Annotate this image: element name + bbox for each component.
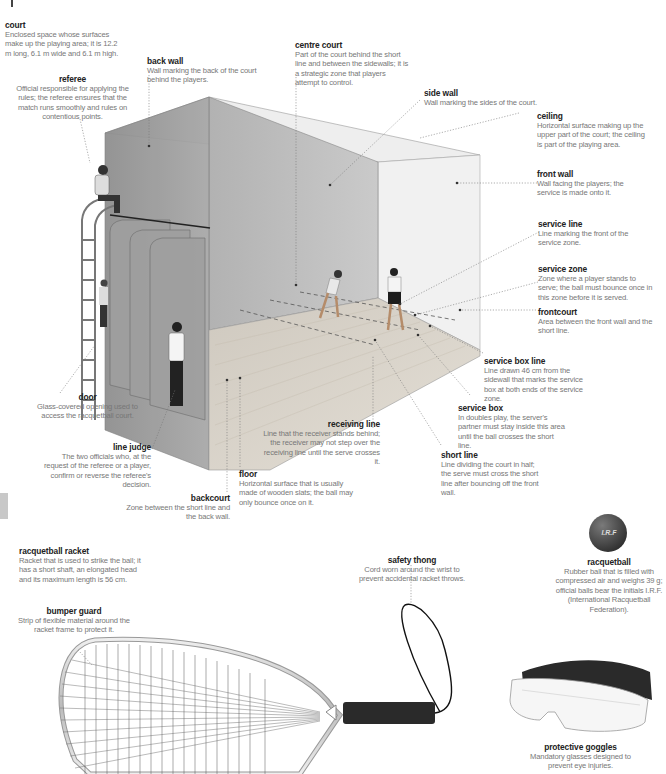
- label-back-wall: back wall Wall marking the back of the c…: [147, 56, 257, 85]
- ball-initials: I.R.F: [601, 528, 616, 537]
- label-desc: Enclosed space whose surfaces make up th…: [5, 30, 125, 58]
- label-service-box: service box In doubles play, the server'…: [458, 403, 568, 451]
- label-desc: Line dividing the court in half; the ser…: [441, 460, 546, 498]
- label-backcourt: backcourt Zone between the short line an…: [120, 493, 230, 522]
- label-desc: Wall marking the sides of the court.: [424, 98, 554, 107]
- label-title: back wall: [147, 56, 257, 66]
- label-desc: Horizontal surface that is usually made …: [239, 479, 354, 507]
- label-racquetball: racquetball Rubber ball that is filled w…: [553, 557, 665, 614]
- label-title: referee: [15, 74, 130, 84]
- racket-grip: [343, 702, 435, 724]
- label-title: front wall: [537, 169, 647, 179]
- label-title: line judge: [40, 442, 151, 452]
- label-desc: The two officials who, at the request of…: [40, 452, 151, 490]
- goggles-drawing: [510, 660, 652, 731]
- label-desc: Line drawn 46 cm from the sidewall that …: [484, 366, 594, 404]
- label-title: service line: [538, 219, 638, 229]
- label-court: court Enclosed space whose surfaces make…: [5, 20, 125, 58]
- label-desc: Part of the court behind the short line …: [295, 50, 410, 88]
- label-desc: Cord worn around the wrist to prevent ac…: [357, 565, 467, 584]
- label-desc: Wall facing the players; the service is …: [537, 179, 647, 198]
- label-title: floor: [239, 469, 354, 479]
- label-title: ceiling: [537, 111, 647, 121]
- label-protective-goggles: protective goggles Mandatory glasses des…: [528, 742, 633, 771]
- label-title: frontcourt: [538, 307, 653, 317]
- label-title: service zone: [538, 264, 653, 274]
- line-judge-figure-front: [169, 322, 184, 406]
- label-title: bumper guard: [18, 606, 130, 616]
- label-desc: Horizontal surface making up the upper p…: [537, 121, 647, 149]
- label-title: service box line: [484, 356, 594, 366]
- label-desc: Strip of flexible material around the ra…: [18, 616, 130, 635]
- label-desc: Official responsible for applying the ru…: [15, 84, 130, 122]
- label-title: side wall: [424, 88, 554, 98]
- label-title: centre court: [295, 40, 410, 50]
- label-desc: Glass-covered opening used to access the…: [35, 402, 140, 421]
- label-title: backcourt: [120, 493, 230, 503]
- label-door: door Glass-covered opening used to acces…: [35, 392, 140, 421]
- label-desc: Rubber ball that is filled with compress…: [553, 567, 665, 614]
- label-title: racquetball racket: [19, 546, 144, 556]
- label-title: safety thong: [357, 555, 467, 565]
- label-desc: Line that the receiver stands behind; th…: [260, 429, 380, 467]
- label-title: racquetball: [553, 557, 665, 567]
- label-safety-thong: safety thong Cord worn around the wrist …: [357, 555, 467, 584]
- label-title: short line: [441, 450, 546, 460]
- label-bumper-guard: bumper guard Strip of flexible material …: [18, 606, 130, 635]
- label-service-zone: service zone Zone where a player stands …: [538, 264, 653, 302]
- label-title: protective goggles: [528, 742, 633, 752]
- label-receiving-line: receiving line Line that the receiver st…: [260, 419, 380, 467]
- label-line-judge: line judge The two officials who, at the…: [40, 442, 151, 490]
- label-side-wall: side wall Wall marking the sides of the …: [424, 88, 554, 107]
- label-service-line: service line Line marking the front of t…: [538, 219, 638, 248]
- label-title: service box: [458, 403, 568, 413]
- label-desc: Wall marking the back of the court behin…: [147, 66, 257, 85]
- label-title: receiving line: [260, 419, 380, 429]
- label-floor: floor Horizontal surface that is usually…: [239, 469, 354, 507]
- label-referee: referee Official responsible for applyin…: [15, 74, 130, 122]
- label-desc: Zone between the short line and the back…: [120, 503, 230, 522]
- label-short-line: short line Line dividing the court in ha…: [441, 450, 546, 498]
- label-desc: Mandatory glasses designed to prevent ey…: [528, 752, 633, 771]
- label-desc: Line marking the front of the service zo…: [538, 229, 638, 248]
- label-desc: In doubles play, the server's partner mu…: [458, 413, 568, 451]
- label-service-box-line: service box line Line drawn 46 cm from t…: [484, 356, 594, 404]
- label-frontcourt: frontcourt Area between the front wall a…: [538, 307, 653, 336]
- label-desc: Racket that is used to strike the ball; …: [19, 556, 144, 584]
- label-racquetball-racket: racquetball racket Racket that is used t…: [19, 546, 144, 584]
- safety-thong-loop: [402, 604, 452, 713]
- label-centre-court: centre court Part of the court behind th…: [295, 40, 410, 88]
- label-ceiling: ceiling Horizontal surface making up the…: [537, 111, 647, 149]
- label-title: court: [5, 20, 125, 30]
- label-front-wall: front wall Wall facing the players; the …: [537, 169, 647, 198]
- label-desc: Zone where a player stands to serve; the…: [538, 274, 653, 302]
- label-title: door: [35, 392, 140, 402]
- label-desc: Area between the front wall and the shor…: [538, 317, 653, 336]
